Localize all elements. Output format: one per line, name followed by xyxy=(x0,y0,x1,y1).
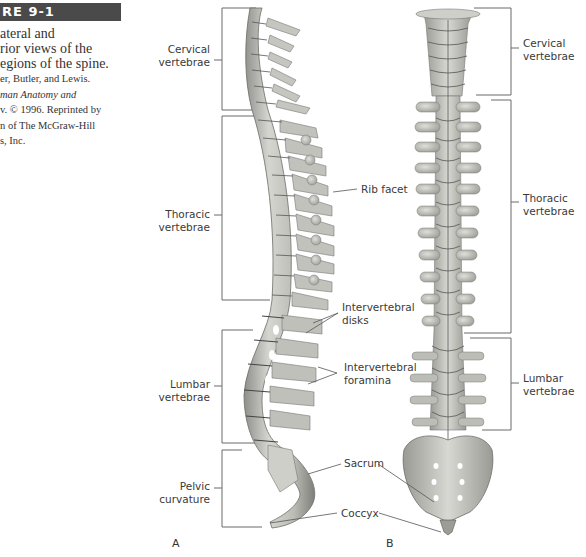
label-text: Thoracic xyxy=(523,192,574,205)
label-text: Intervertebral xyxy=(344,361,417,374)
label-text: foramina xyxy=(344,374,417,387)
label-a-thoracic: Thoracic vertebrae xyxy=(150,208,210,234)
panel-letter-a: A xyxy=(172,537,180,550)
label-text: vertebrae xyxy=(523,205,574,218)
label-text: vertebrae xyxy=(523,385,574,398)
label-text: vertebrae xyxy=(150,221,210,234)
label-coccyx: Coccyx xyxy=(341,507,379,520)
label-b-cervical: Cervical vertebrae xyxy=(523,37,574,63)
label-a-pelvic: Pelvic curvature xyxy=(150,480,210,506)
label-text: curvature xyxy=(150,493,210,506)
label-text: Pelvic xyxy=(150,480,210,493)
label-text: disks xyxy=(342,314,415,327)
label-text: Lumbar xyxy=(523,372,574,385)
label-text: Intervertebral xyxy=(342,301,415,314)
label-text: Cervical xyxy=(150,43,210,56)
label-rib-facet: Rib facet xyxy=(361,183,408,196)
label-text: vertebrae xyxy=(150,56,210,69)
label-text: Thoracic xyxy=(150,208,210,221)
label-intervertebral-disks: Intervertebral disks xyxy=(342,301,415,327)
bracket-lines-b xyxy=(464,8,519,430)
label-text: Cervical xyxy=(523,37,574,50)
label-text: Lumbar xyxy=(150,378,210,391)
label-text: vertebrae xyxy=(150,391,210,404)
label-sacrum: Sacrum xyxy=(344,457,384,470)
lateral-spine xyxy=(244,8,334,528)
label-a-lumbar: Lumbar vertebrae xyxy=(150,378,210,404)
label-intervertebral-foramina: Intervertebral foramina xyxy=(344,361,417,387)
posterior-spine xyxy=(403,9,493,535)
label-a-cervical: Cervical vertebrae xyxy=(150,43,210,69)
label-b-lumbar: Lumbar vertebrae xyxy=(523,372,574,398)
label-text: vertebrae xyxy=(523,50,574,63)
label-b-thoracic: Thoracic vertebrae xyxy=(523,192,574,218)
spine-illustration xyxy=(0,0,586,557)
panel-letter-b: B xyxy=(386,537,394,550)
